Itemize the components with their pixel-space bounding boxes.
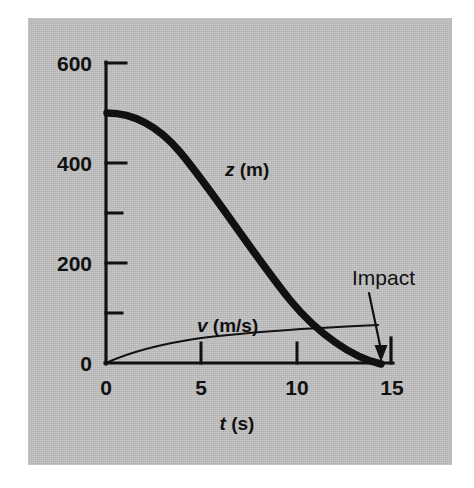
x-axis-title: t (s) xyxy=(220,413,255,434)
y-tick-label-200: 200 xyxy=(57,252,92,275)
x-tick-label-5: 5 xyxy=(195,376,207,399)
y-tick-label-400: 400 xyxy=(57,152,92,175)
y-tick-label-0: 0 xyxy=(80,352,92,375)
x-tick-marks xyxy=(201,343,297,363)
x-axis-title-unit: (s) xyxy=(231,413,254,434)
z-curve-label-unit: (m) xyxy=(240,159,270,180)
figure-page: 600 400 200 0 0 5 10 15 z (m) v (m/s) t … xyxy=(0,0,474,488)
v-curve-label-unit: (m/s) xyxy=(213,315,258,336)
y-tick-label-600: 600 xyxy=(57,52,92,75)
x-tick-label-0: 0 xyxy=(100,376,112,399)
y-tick-marks xyxy=(106,63,126,313)
chart-canvas: 600 400 200 0 0 5 10 15 z (m) v (m/s) t … xyxy=(0,0,474,488)
v-curve-label: v (m/s) xyxy=(197,315,258,336)
x-tick-label-15: 15 xyxy=(380,376,404,399)
impact-annotation-label: Impact xyxy=(352,266,415,289)
z-curve-label: z (m) xyxy=(224,159,269,180)
impact-arrow xyxy=(369,293,388,362)
x-tick-label-10: 10 xyxy=(285,376,308,399)
z-curve-label-var: z xyxy=(224,159,235,180)
